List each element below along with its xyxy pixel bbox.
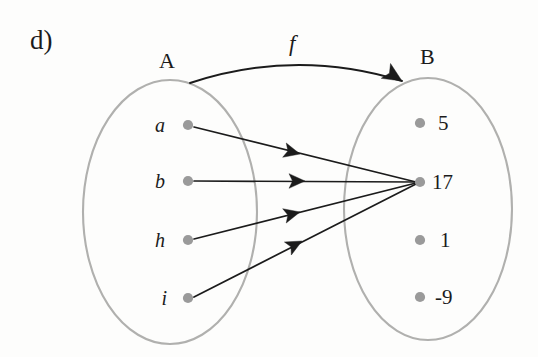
domain-element-dot[interactable] xyxy=(183,235,193,245)
codomain-element-dot[interactable] xyxy=(415,235,425,245)
function-mapping-figure: d) A B f abhi 5171-9 xyxy=(0,0,538,357)
set-label-domain: A xyxy=(159,50,175,72)
set-label-codomain: B xyxy=(420,46,435,68)
codomain-element-label-5: 5 xyxy=(438,113,449,134)
domain-element-dot[interactable] xyxy=(183,176,193,186)
function-label: f xyxy=(289,32,295,55)
diagram-canvas xyxy=(0,0,538,357)
codomain-element-dot[interactable] xyxy=(415,292,425,302)
mapping-edge xyxy=(194,183,416,239)
mapping-edges-group xyxy=(194,127,416,297)
domain-element-label-b: b xyxy=(155,171,165,191)
codomain-element-dot[interactable] xyxy=(415,118,425,128)
codomain-element-label-17: 17 xyxy=(432,172,453,193)
mapping-arrowhead xyxy=(283,205,302,223)
mapping-edge xyxy=(194,127,416,182)
function-arc-group xyxy=(190,64,407,89)
part-label: d) xyxy=(30,27,53,54)
codomain-element-dot[interactable] xyxy=(415,177,425,187)
mapping-arrowhead xyxy=(284,235,305,256)
domain-element-label-h: h xyxy=(155,230,165,250)
codomain-element-label--9: -9 xyxy=(435,287,453,308)
mapping-edge xyxy=(194,184,416,297)
set-ellipse-codomain xyxy=(344,78,512,340)
codomain-element-label-1: 1 xyxy=(440,230,451,251)
function-arc-path xyxy=(190,65,402,83)
domain-element-dot[interactable] xyxy=(183,120,193,130)
domain-element-label-a: a xyxy=(155,115,165,135)
set-ellipse-domain xyxy=(83,80,257,344)
mapping-arrowhead xyxy=(283,143,302,161)
domain-element-dot[interactable] xyxy=(183,293,193,303)
domain-element-label-i: i xyxy=(161,288,167,308)
